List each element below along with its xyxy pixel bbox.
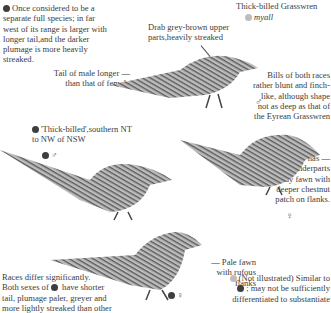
note-bills: Bills of both races rather blunt and fin… bbox=[252, 70, 330, 121]
female-symbol: ♀ bbox=[286, 210, 294, 221]
dark-race-dot-icon bbox=[237, 285, 244, 292]
bird-female-right-illustration bbox=[180, 115, 330, 195]
subspecies-label: myall bbox=[245, 12, 273, 22]
note-separate-species: Once considered to be a separate full sp… bbox=[3, 3, 111, 65]
bird-female-bottom-illustration bbox=[50, 210, 210, 300]
dark-race-dot-icon bbox=[3, 5, 10, 12]
dark-race-dot-icon bbox=[32, 126, 39, 133]
light-race-dot-icon bbox=[245, 14, 252, 21]
species-name: Thick-billed Grasswren bbox=[236, 1, 317, 11]
bird-male-top-illustration bbox=[110, 40, 260, 110]
note-not-illustrated: (Not illustrated) Similar to ; may not b… bbox=[225, 273, 330, 304]
light-race-dot-icon bbox=[230, 275, 237, 282]
bird-male-left-illustration bbox=[0, 140, 175, 220]
